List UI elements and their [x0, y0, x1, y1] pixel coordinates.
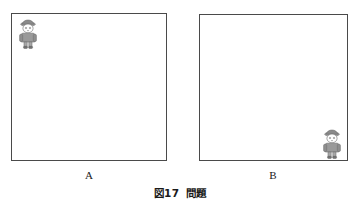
child-figure-icon	[17, 18, 39, 49]
figure-caption-title: 問題	[186, 187, 207, 199]
figure-panel-b	[199, 14, 348, 161]
figure-panel-a	[11, 13, 167, 161]
child-figure-icon	[321, 128, 343, 159]
figure-caption: 図17問題	[0, 185, 360, 200]
figure-caption-number: 図17	[154, 187, 180, 199]
panel-label-a: A	[69, 170, 109, 181]
panel-label-b: B	[253, 170, 293, 181]
